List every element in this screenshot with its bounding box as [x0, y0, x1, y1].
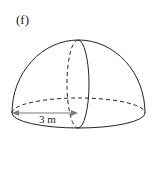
cross-section-front	[78, 40, 89, 128]
part-label: (f)	[16, 12, 29, 28]
radius-label: 3 m	[39, 113, 56, 125]
base-back-edge	[12, 98, 145, 113]
base-front-edge	[12, 113, 145, 128]
